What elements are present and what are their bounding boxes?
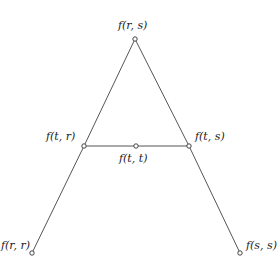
label-frr: f(r, r) <box>1 240 30 251</box>
label-ftr: f(t, r) <box>46 131 75 142</box>
label-fss: f(s, s) <box>246 240 277 251</box>
label-ftt: f(t, t) <box>119 153 148 164</box>
node-frr <box>30 251 34 255</box>
node-fss <box>238 251 242 255</box>
label-frs: f(r, s) <box>118 20 147 31</box>
edge-frs-fts <box>135 39 189 146</box>
edge-frs-ftr <box>84 39 135 146</box>
node-ftr <box>82 144 86 148</box>
edge-fts-fss <box>189 146 240 253</box>
nodes <box>30 37 242 255</box>
label-fts: f(t, s) <box>195 131 225 142</box>
node-ftt <box>134 144 138 148</box>
node-frs <box>133 37 137 41</box>
diagram-canvas <box>0 0 277 271</box>
node-fts <box>187 144 191 148</box>
edge-ftr-frr <box>32 146 84 253</box>
